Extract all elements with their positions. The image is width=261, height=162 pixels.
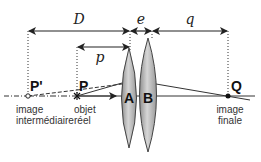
caption-p-line2: réel	[74, 115, 91, 126]
caption-p-line1: objet	[74, 104, 96, 115]
caption-p-prime-line1: image	[16, 104, 44, 115]
lens-a-label: A	[124, 90, 134, 106]
label-d: D	[72, 11, 84, 27]
light-rays	[28, 83, 250, 100]
lens-b-label: B	[143, 90, 153, 106]
caption-p-prime-line2: intermédiaire	[16, 115, 74, 126]
lens-system-diagram: D e q p A B P' P Q image intermédiaire o…	[0, 0, 261, 162]
caption-q-line1: image	[216, 104, 244, 115]
caption-q-line2: finale	[218, 115, 242, 126]
label-p: p	[96, 49, 105, 65]
label-e: e	[137, 11, 145, 27]
label-q: q	[186, 11, 195, 27]
point-p-prime-marker	[26, 94, 30, 98]
dimension-arrows	[29, 31, 227, 47]
label-q: Q	[231, 78, 242, 94]
label-p-prime: P'	[30, 78, 43, 94]
point-q-marker	[226, 94, 231, 99]
label-p: P	[79, 78, 88, 94]
